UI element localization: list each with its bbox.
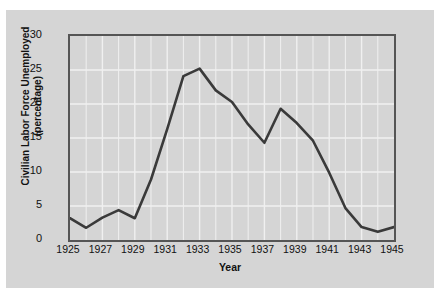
x-axis-tick-label: 1945 [372, 243, 412, 255]
chart-figure: Civilian Labor Force Unemployed (percent… [6, 10, 434, 288]
y-axis-tick-label: 10 [16, 165, 42, 175]
y-axis-tick-label: 0 [16, 233, 42, 243]
y-axis-tick-label: 30 [16, 29, 42, 39]
chart-svg [70, 36, 394, 240]
y-axis-tick-label: 15 [16, 131, 42, 141]
x-axis-title: Year [68, 261, 392, 273]
plot-area [68, 34, 396, 242]
y-axis-tick-label: 5 [16, 199, 42, 209]
y-axis-tick-label: 20 [16, 97, 42, 107]
y-axis-tick-label: 25 [16, 63, 42, 73]
